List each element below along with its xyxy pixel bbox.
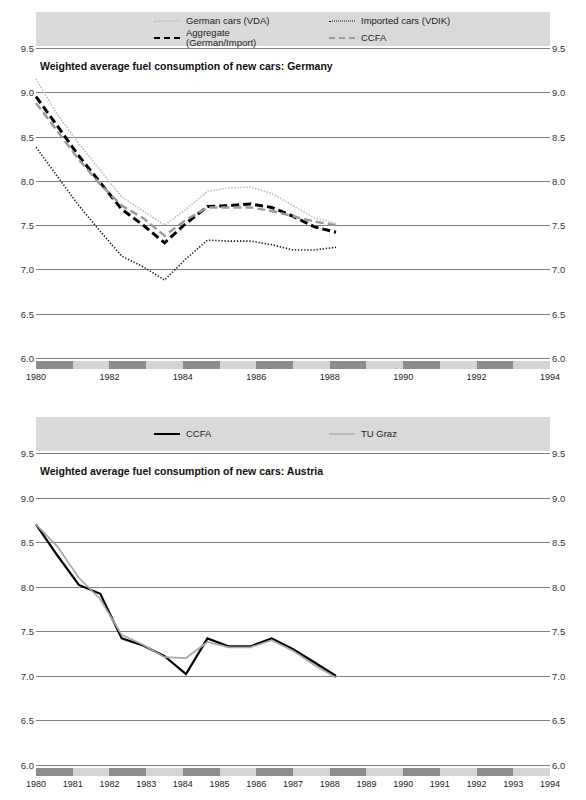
y-axis-label-right: 8.0 bbox=[552, 581, 580, 592]
y-axis-label-right: 7.5 bbox=[552, 626, 580, 637]
y-axis-label-left: 6.0 bbox=[6, 760, 34, 771]
line-style-swatch-icon bbox=[329, 17, 355, 25]
x-axis-band-segment bbox=[366, 768, 403, 776]
x-axis-band-segment bbox=[366, 361, 403, 369]
y-axis-label-left: 7.5 bbox=[6, 626, 34, 637]
y-axis-label-right: 8.5 bbox=[552, 131, 580, 142]
x-axis-label: 1990 bbox=[393, 779, 413, 789]
x-axis-label: 1982 bbox=[99, 779, 119, 789]
y-axis-label-left: 7.5 bbox=[6, 220, 34, 231]
x-axis-band-segment bbox=[36, 361, 73, 369]
series-line bbox=[36, 524, 336, 677]
x-axis-band bbox=[36, 361, 550, 369]
x-axis-label: 1991 bbox=[430, 779, 450, 789]
y-axis-label-right: 6.0 bbox=[552, 760, 580, 771]
chart-germany: German cars (VDA) Imported cars (VDIK) A… bbox=[0, 0, 586, 392]
y-axis-label-right: 9.5 bbox=[552, 43, 580, 54]
x-axis-band-segment bbox=[330, 768, 367, 776]
x-axis-ticks: 1980198119821983198419851986198719881989… bbox=[36, 779, 550, 793]
x-axis-band-segment bbox=[220, 768, 257, 776]
legend-label: Imported cars (VDIK) bbox=[361, 16, 450, 26]
line-style-swatch-icon bbox=[154, 430, 180, 438]
y-axis-label-left: 8.5 bbox=[6, 131, 34, 142]
x-axis-band-segment bbox=[477, 361, 514, 369]
x-axis-label: 1990 bbox=[393, 372, 413, 382]
y-axis-label-left: 8.5 bbox=[6, 537, 34, 548]
x-axis-band-segment bbox=[440, 768, 477, 776]
y-axis-label-right: 6.5 bbox=[552, 308, 580, 319]
x-axis-label: 1986 bbox=[246, 372, 266, 382]
legend-label: German cars (VDA) bbox=[186, 16, 269, 26]
x-axis-label: 1992 bbox=[467, 372, 487, 382]
line-style-swatch-icon bbox=[329, 34, 355, 42]
x-axis-label: 1981 bbox=[63, 779, 83, 789]
legend-item-german-cars: German cars (VDA) bbox=[36, 16, 293, 26]
y-axis-label-left: 6.5 bbox=[6, 715, 34, 726]
series-line bbox=[36, 524, 336, 676]
y-axis-label-left: 7.0 bbox=[6, 670, 34, 681]
x-axis-band-segment bbox=[146, 361, 183, 369]
legend-label: CCFA bbox=[361, 33, 386, 43]
x-axis-label: 1983 bbox=[136, 779, 156, 789]
y-axis-label-left: 9.0 bbox=[6, 492, 34, 503]
line-style-swatch-icon bbox=[154, 34, 180, 42]
y-axis-label-left: 9.0 bbox=[6, 87, 34, 98]
x-axis-label: 1984 bbox=[173, 779, 193, 789]
legend-item-ccfa: CCFA bbox=[293, 33, 550, 43]
x-axis-band-segment bbox=[256, 361, 293, 369]
x-axis-label: 1980 bbox=[26, 779, 46, 789]
x-axis-band-segment bbox=[403, 768, 440, 776]
chart-austria: CCFA TU Graz Weighted average fuel consu… bbox=[0, 405, 586, 800]
y-axis-label-right: 9.0 bbox=[552, 492, 580, 503]
y-axis-label-right: 9.5 bbox=[552, 448, 580, 459]
y-axis-label-left: 7.0 bbox=[6, 264, 34, 275]
x-axis-band-segment bbox=[477, 768, 514, 776]
series-layer bbox=[36, 451, 336, 769]
plot-area-germany: 6.06.06.56.57.07.07.57.58.08.08.58.59.09… bbox=[0, 46, 586, 356]
x-axis-band-segment bbox=[293, 361, 330, 369]
y-axis-label-right: 6.0 bbox=[552, 353, 580, 364]
x-axis-band-segment bbox=[513, 768, 550, 776]
y-axis-label-right: 8.5 bbox=[552, 537, 580, 548]
y-axis-label-right: 7.0 bbox=[552, 670, 580, 681]
y-axis-label-left: 6.0 bbox=[6, 353, 34, 364]
y-axis-label-right: 7.0 bbox=[552, 264, 580, 275]
x-axis-band-segment bbox=[293, 768, 330, 776]
x-axis-band-segment bbox=[73, 768, 110, 776]
line-style-swatch-icon bbox=[329, 430, 355, 438]
x-axis-label: 1988 bbox=[320, 372, 340, 382]
series-layer bbox=[36, 46, 336, 362]
y-axis-label-right: 9.0 bbox=[552, 87, 580, 98]
y-axis-label-right: 7.5 bbox=[552, 220, 580, 231]
x-axis-band-segment bbox=[109, 768, 146, 776]
line-style-swatch-icon bbox=[154, 17, 180, 25]
x-axis-label: 1994 bbox=[540, 372, 560, 382]
x-axis-band-segment bbox=[220, 361, 257, 369]
x-axis-band-segment bbox=[403, 361, 440, 369]
x-axis-band-segment bbox=[146, 768, 183, 776]
x-axis-band-segment bbox=[256, 768, 293, 776]
plot-area-austria: 6.06.06.56.57.07.07.57.58.08.08.58.59.09… bbox=[0, 451, 586, 766]
legend-germany: German cars (VDA) Imported cars (VDIK) A… bbox=[36, 12, 550, 46]
legend-label: TU Graz bbox=[361, 429, 397, 439]
x-axis-band-segment bbox=[440, 361, 477, 369]
legend-item-tu-graz: TU Graz bbox=[293, 429, 550, 439]
x-axis-label: 1988 bbox=[320, 779, 340, 789]
x-axis-label: 1980 bbox=[26, 372, 46, 382]
series-line bbox=[36, 147, 336, 280]
y-axis-label-left: 8.0 bbox=[6, 581, 34, 592]
x-axis-band-segment bbox=[183, 361, 220, 369]
x-axis-band-segment bbox=[109, 361, 146, 369]
x-axis-label: 1982 bbox=[99, 372, 119, 382]
y-axis-label-right: 6.5 bbox=[552, 715, 580, 726]
y-axis-label-left: 9.5 bbox=[6, 448, 34, 459]
y-axis-label-right: 8.0 bbox=[552, 175, 580, 186]
x-axis-band-segment bbox=[513, 361, 550, 369]
x-axis-label: 1993 bbox=[503, 779, 523, 789]
legend-item-ccfa-austria: CCFA bbox=[36, 429, 293, 439]
x-axis-band-segment bbox=[330, 361, 367, 369]
legend-austria: CCFA TU Graz bbox=[36, 417, 550, 451]
x-axis-label: 1984 bbox=[173, 372, 193, 382]
x-axis-label: 1994 bbox=[540, 779, 560, 789]
x-axis-ticks: 19801982198419861988199019921994 bbox=[36, 372, 550, 386]
